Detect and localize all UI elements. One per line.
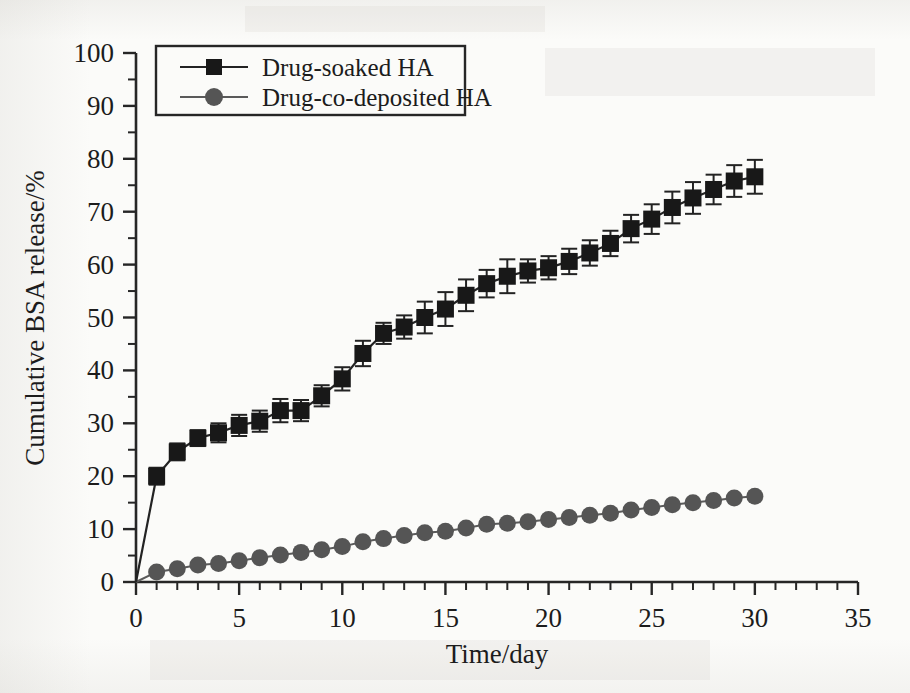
data-point-marker [540,511,557,528]
x-tick-label: 5 [232,603,246,633]
data-point-marker [334,370,351,387]
data-point-marker [458,287,475,304]
data-point-marker [499,268,516,285]
data-point-marker [148,468,165,485]
y-tick-label: 100 [74,38,115,68]
data-point-marker [726,173,743,190]
y-tick-label: 30 [87,408,114,438]
x-tick-label: 30 [741,603,768,633]
y-tick-label: 50 [87,303,114,333]
data-point-marker [705,492,722,509]
data-point-marker [519,513,536,530]
data-point-marker [272,547,289,564]
data-point-marker [478,275,495,292]
x-axis-tick-labels: 05101520253035 [129,603,871,633]
x-tick-label: 20 [535,603,562,633]
data-point-marker [334,538,351,555]
data-point-marker [561,253,578,270]
data-point-marker [251,413,268,430]
data-point-marker [375,325,392,342]
data-point-marker [437,523,454,540]
data-point-marker [313,541,330,558]
figure-page: 0102030405060708090100 05101520253035 Cu… [0,0,910,693]
data-point-marker [519,262,536,279]
x-tick-label: 15 [432,603,459,633]
data-point-marker [746,488,763,505]
data-point-marker [581,244,598,261]
data-point-marker [746,168,763,185]
data-point-marker [581,507,598,524]
data-point-marker [684,494,701,511]
y-tick-label: 10 [87,514,114,544]
data-point-marker [354,533,371,550]
data-point-marker [210,424,227,441]
data-point-marker [643,499,660,516]
data-point-marker [375,530,392,547]
cumulative-bsa-release-chart: 0102030405060708090100 05101520253035 Cu… [0,0,910,693]
data-point-marker [293,402,310,419]
y-tick-label: 40 [87,355,114,385]
data-point-marker [705,181,722,198]
y-tick-label: 20 [87,461,114,491]
data-point-marker [231,417,248,434]
data-point-marker [623,220,640,237]
data-point-marker [726,489,743,506]
x-tick-label: 0 [129,603,143,633]
data-point-marker [684,189,701,206]
chart-legend: Drug-soaked HA Drug-co-deposited HA [156,46,492,115]
x-axis-ticks [136,582,858,595]
y-tick-label: 70 [87,197,114,227]
data-point-marker [416,524,433,541]
data-point-marker [396,527,413,544]
data-point-marker [189,430,206,447]
x-tick-label: 10 [329,603,356,633]
data-point-marker [272,402,289,419]
y-tick-label: 80 [87,144,114,174]
data-point-marker [416,309,433,326]
data-point-marker [602,505,619,522]
legend-label-drug-soaked-ha: Drug-soaked HA [262,54,433,81]
data-point-marker [602,235,619,252]
data-point-marker [169,560,186,577]
data-point-marker [437,301,454,318]
y-axis-ticks [123,53,136,582]
data-point-marker [189,557,206,574]
data-point-marker [623,502,640,519]
data-point-marker [458,520,475,537]
y-tick-label: 0 [101,567,115,597]
data-point-marker [293,544,310,561]
legend-marker-circle-icon [205,88,223,106]
data-point-marker [231,552,248,569]
data-point-marker [478,516,495,533]
data-point-marker [643,211,660,228]
data-point-marker [499,515,516,532]
y-tick-label: 90 [87,91,114,121]
y-axis-title: Cumulative BSA release/% [20,170,50,465]
data-point-marker [313,387,330,404]
x-tick-label: 25 [638,603,665,633]
data-point-marker [354,345,371,362]
x-tick-label: 35 [845,603,872,633]
series-drug-co-deposited-ha [136,488,763,582]
data-point-marker [664,199,681,216]
data-point-marker [210,555,227,572]
legend-marker-square-icon [206,59,222,75]
y-tick-label: 60 [87,250,114,280]
series-drug-soaked-ha [136,160,763,582]
data-point-marker [664,496,681,513]
legend-label-drug-co-deposited-ha: Drug-co-deposited HA [262,84,492,111]
data-point-marker [396,319,413,336]
series-line [136,177,755,582]
data-point-marker [148,563,165,580]
data-point-marker [251,549,268,566]
data-point-marker [169,443,186,460]
x-axis-title: Time/day [446,639,549,669]
data-point-marker [561,509,578,526]
data-point-marker [540,259,557,276]
y-axis-tick-labels: 0102030405060708090100 [74,38,115,597]
